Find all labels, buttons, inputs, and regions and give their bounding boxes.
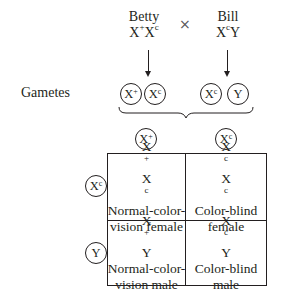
gamete-father-y: Y xyxy=(227,83,249,105)
punnett-cell-male-colorblind: XcY Color-blind male xyxy=(186,221,266,285)
punnett-row-header-x-c: Xc xyxy=(85,175,107,197)
punnett-row-header-y: Y xyxy=(85,242,107,264)
cell-phenotype-line1: Color-blind xyxy=(195,261,258,277)
punnett-cell-female-normal: X+Xc Normal-color- vision female xyxy=(108,154,185,220)
cell-genotype: X+Y xyxy=(142,213,152,261)
punnett-cell-female-colorblind: XcXc Color-blind female xyxy=(186,154,266,220)
punnett-cell-male-normal: X+Y Normal-color- vision male xyxy=(108,221,185,285)
father-arrow-line xyxy=(227,50,228,72)
brace-icon xyxy=(118,106,254,120)
gamete-father-x-c: Xc xyxy=(200,83,222,105)
father-parent: Bill XcY xyxy=(193,9,263,41)
cell-phenotype-line1: Normal-color- xyxy=(108,261,186,277)
cross-symbol: × xyxy=(179,16,191,32)
cell-phenotype-line2: male xyxy=(213,277,239,293)
gamete-mother-x-plus: X+ xyxy=(120,83,142,105)
father-arrow-head-icon xyxy=(224,71,230,77)
cell-genotype: XcXc xyxy=(221,139,231,203)
mother-arrow-head-icon xyxy=(145,71,151,77)
father-genotype: XcY xyxy=(193,25,263,41)
gametes-label: Gametes xyxy=(21,85,70,101)
mother-parent: Betty X+Xc xyxy=(109,9,179,41)
mother-genotype: X+Xc xyxy=(109,25,179,41)
mother-arrow-line xyxy=(148,50,149,72)
cell-genotype: XcY xyxy=(221,213,231,261)
cell-genotype: X+Xc xyxy=(142,139,152,203)
cell-phenotype-line2: vision male xyxy=(115,277,178,293)
gamete-mother-x-c: Xc xyxy=(144,83,166,105)
